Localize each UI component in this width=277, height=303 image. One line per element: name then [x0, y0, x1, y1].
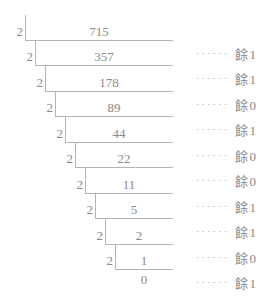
remainder-label: 餘: [235, 73, 248, 86]
dividend-value: 357: [35, 50, 173, 63]
division-step: 2 357: [35, 41, 173, 67]
leader-dots: ······: [196, 49, 230, 58]
division-step: 2 11: [85, 168, 173, 194]
remainder-label: 餘: [235, 124, 248, 137]
remainder-annotation: ······ 餘 1: [196, 73, 256, 87]
remainder-annotation: ······ 餘 1: [196, 200, 256, 214]
remainder-label: 餘: [235, 99, 248, 112]
divisor-label: 2: [17, 25, 24, 38]
remainder-value: 1: [250, 48, 257, 61]
divisor-label: 2: [87, 203, 94, 216]
division-step: 2 2: [105, 219, 173, 245]
division-step: 2 178: [45, 66, 173, 92]
bracket-horizontal-line: [115, 269, 173, 270]
remainder-label: 餘: [235, 226, 248, 239]
division-step: 2 22: [75, 143, 173, 169]
leader-dots: ······: [196, 74, 230, 83]
leader-dots: ······: [196, 100, 230, 109]
dividend-value: 22: [75, 152, 173, 165]
dividend-value: 11: [85, 178, 173, 191]
remainder-value: 1: [250, 201, 257, 214]
remainder-value: 0: [250, 150, 257, 163]
divisor-label: 2: [37, 76, 44, 89]
dividend-value: 44: [65, 127, 173, 140]
dividend-value: 5: [95, 203, 173, 216]
remainder-annotation: ······ 餘 0: [196, 175, 256, 189]
divisor-label: 2: [97, 229, 104, 242]
remainder-value: 0: [250, 175, 257, 188]
division-step: 2 44: [65, 117, 173, 143]
remainder-value: 1: [250, 124, 257, 137]
leader-dots: ······: [196, 151, 230, 160]
dividend-value: 2: [105, 229, 173, 242]
remainder-label: 餘: [235, 48, 248, 61]
final-quotient-value: 0: [115, 273, 173, 286]
remainder-annotation: ······ 餘 0: [196, 149, 256, 163]
divisor-label: 2: [77, 178, 84, 191]
remainder-annotation: ······ 餘 1: [196, 226, 256, 240]
dividend-value: 89: [55, 101, 173, 114]
remainder-annotation: ······ 餘 1: [196, 124, 256, 138]
remainder-annotation: ······ 餘 0: [196, 251, 256, 265]
divisor-label: 2: [47, 101, 54, 114]
leader-dots: ······: [196, 227, 230, 236]
remainder-annotation: ······ 餘 0: [196, 98, 256, 112]
division-step: 2 715: [25, 15, 173, 41]
divisor-label: 2: [27, 50, 34, 63]
remainder-label: 餘: [235, 277, 248, 290]
leader-dots: ······: [196, 202, 230, 211]
leader-dots: ······: [196, 176, 230, 185]
remainder-label: 餘: [235, 175, 248, 188]
leader-dots: ······: [196, 278, 230, 287]
long-division-diagram: 2 715 2 357 2 178 2 89 2 44 2 22: [0, 0, 277, 303]
remainder-value: 1: [250, 226, 257, 239]
divisor-label: 2: [107, 254, 114, 267]
remainder-annotation: ······ 餘 1: [196, 47, 256, 61]
dividend-value: 178: [45, 76, 173, 89]
remainder-value: 0: [250, 99, 257, 112]
division-step: 2 1: [115, 245, 173, 271]
remainder-label: 餘: [235, 150, 248, 163]
dividend-value: 1: [115, 254, 173, 267]
remainder-label: 餘: [235, 252, 248, 265]
remainder-value: 1: [250, 277, 257, 290]
divisor-label: 2: [67, 152, 74, 165]
remainder-value: 1: [250, 73, 257, 86]
division-step: 2 5: [95, 194, 173, 220]
leader-dots: ······: [196, 125, 230, 134]
remainder-annotation: ······ 餘 1: [196, 277, 256, 291]
leader-dots: ······: [196, 253, 230, 262]
divisor-label: 2: [57, 127, 64, 140]
dividend-value: 715: [25, 25, 173, 38]
division-step: 2 89: [55, 92, 173, 118]
remainder-label: 餘: [235, 201, 248, 214]
remainder-value: 0: [250, 252, 257, 265]
